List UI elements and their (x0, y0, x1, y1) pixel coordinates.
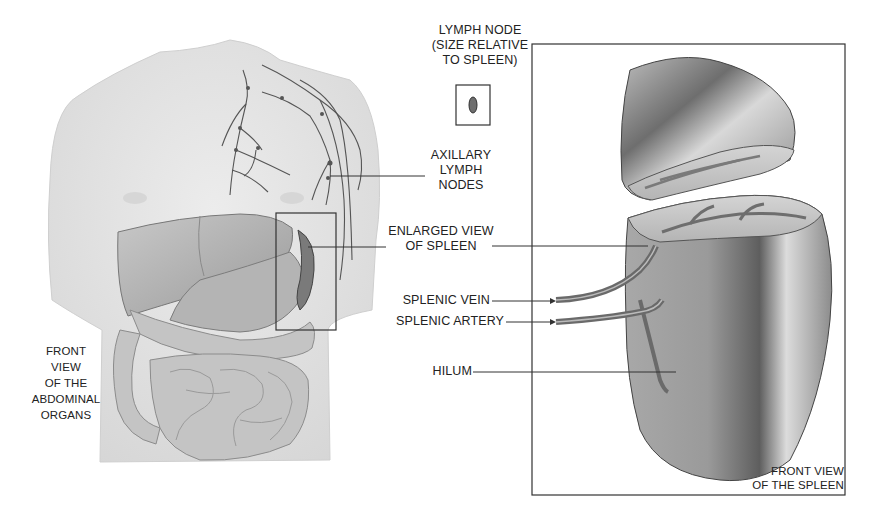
anatomy-illustration (0, 0, 870, 519)
spleen-upper-lobe (621, 58, 795, 201)
label-lymph-node-size: LYMPH NODE (SIZE RELATIVE TO SPLEEN) (420, 23, 540, 68)
label-line: TO SPLEEN) (420, 53, 540, 68)
label-enlarged-view: ENLARGED VIEW OF SPLEEN (386, 224, 496, 254)
label-line: LYMPH NODE (420, 23, 540, 38)
label-line: FRONT (26, 343, 106, 359)
label-line: ORGANS (26, 407, 106, 423)
label-line: OF THE (26, 375, 106, 391)
label-line: AXILLARY (416, 148, 506, 163)
label-splenic-artery: SPLENIC ARTERY (360, 314, 504, 329)
label-line: LYMPH (416, 163, 506, 178)
lymph-node-icon (469, 97, 477, 113)
label-line: NODES (416, 178, 506, 193)
label-line: OF THE SPLEEN (742, 478, 844, 492)
label-line: FRONT VIEW (742, 464, 844, 478)
label-line: ENLARGED VIEW (386, 224, 496, 239)
label-splenic-vein: SPLENIC VEIN (370, 293, 490, 308)
label-line: ABDOMINAL (26, 391, 106, 407)
label-axillary-lymph-nodes: AXILLARY LYMPH NODES (416, 148, 506, 193)
label-hilum: HILUM (400, 364, 472, 379)
label-front-view-abdominal: FRONT VIEW OF THE ABDOMINAL ORGANS (26, 343, 106, 423)
label-line: VIEW (26, 359, 106, 375)
label-line: (SIZE RELATIVE (420, 38, 540, 53)
spleen-body (556, 195, 832, 480)
label-line: OF SPLEEN (386, 239, 496, 254)
label-front-view-spleen: FRONT VIEW OF THE SPLEEN (742, 464, 844, 492)
